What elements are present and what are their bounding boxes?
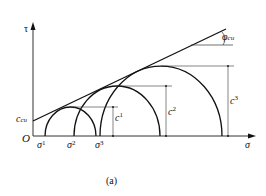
mohr-circle-2 [74,86,160,136]
tau-label: τ [24,24,28,34]
sigma3-3-label: σ3 [95,140,103,150]
sigma3-1-label: σ1 [37,140,45,150]
tau-axis-arrow-icon [31,22,36,30]
figure-caption: (a) [106,176,117,186]
strength-envelope [33,29,226,121]
phi-cu-label: φcu [222,32,234,42]
sigma3-2-label: σ2 [67,140,75,150]
c-cu-label: ccu [16,114,27,124]
mohr-circle-3 [100,66,222,136]
sigma-label: σ [245,140,250,150]
cu3-label: c3 [230,95,238,106]
cu1-label: c1 [115,112,123,123]
mohr-diagram [0,0,266,196]
cu2-label: c2 [168,106,176,117]
origin-label: O [22,133,30,144]
sigma-axis-arrow-icon [248,134,256,139]
